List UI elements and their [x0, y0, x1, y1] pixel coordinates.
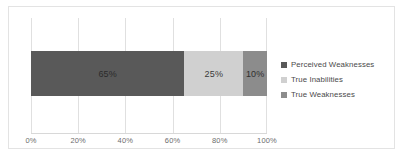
bar-label-true-weaknesses: 10%: [246, 69, 265, 79]
legend-label-perceived-weaknesses: Perceived Weaknesses: [291, 60, 374, 69]
bar-label-true-inabilities: 25%: [205, 69, 224, 79]
legend-swatch-icon-true-inabilities: [281, 77, 287, 83]
x-tick-label-100: 100%: [257, 136, 277, 145]
x-tick-label-60: 60%: [165, 136, 181, 145]
x-tick-label-20: 20%: [70, 136, 86, 145]
legend-item-true-inabilities[interactable]: True Inabilities: [281, 72, 393, 87]
x-tick-label-40: 40%: [118, 136, 134, 145]
legend-item-perceived-weaknesses[interactable]: Perceived Weaknesses: [281, 57, 393, 72]
legend: Perceived Weaknesses True Inabilities Tr…: [281, 57, 393, 102]
bar-label-perceived-weaknesses: 65%: [98, 69, 117, 79]
legend-label-true-weaknesses: True Weaknesses: [291, 90, 355, 99]
bar-segment-true-weaknesses[interactable]: 10%: [243, 51, 267, 96]
x-tick-label-0: 0%: [25, 136, 36, 145]
x-tick-label-80: 80%: [212, 136, 228, 145]
chart-container: 65% 25% 10% 0% 20% 40% 60% 80% 100% Perc…: [8, 6, 395, 149]
bar-segment-true-inabilities[interactable]: 25%: [184, 51, 243, 96]
legend-label-true-inabilities: True Inabilities: [291, 75, 343, 84]
stacked-bar: 65% 25% 10%: [31, 51, 267, 96]
x-axis-line: [31, 133, 267, 134]
legend-swatch-icon-true-weaknesses: [281, 92, 287, 98]
bar-segment-perceived-weaknesses[interactable]: 65%: [31, 51, 184, 96]
legend-item-true-weaknesses[interactable]: True Weaknesses: [281, 87, 393, 102]
legend-swatch-icon-perceived-weaknesses: [281, 62, 287, 68]
x-axis-labels: 0% 20% 40% 60% 80% 100%: [31, 136, 267, 150]
plot-area: 65% 25% 10%: [31, 18, 267, 134]
